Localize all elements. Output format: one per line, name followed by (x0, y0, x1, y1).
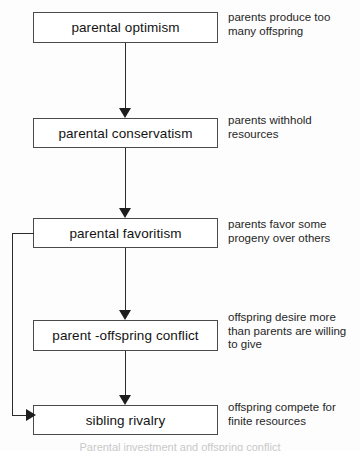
node-label: parent -offspring conflict (52, 328, 198, 343)
annotation-parental-optimism: parents produce too many offspring (228, 11, 360, 38)
node-parental-favoritism[interactable]: parental favoritism (33, 218, 218, 248)
node-label: parental conservatism (58, 126, 192, 141)
edge-conflict-rivalry-arrowhead (119, 395, 131, 405)
edge-favoritism-conflict-arrowhead (119, 310, 131, 320)
edge-favoritism-rivalry-loop-arrowhead (26, 409, 36, 421)
node-label: sibling rivalry (86, 413, 166, 428)
node-label: parental favoritism (69, 226, 181, 241)
edge-favoritism-rivalry-loop-side (12, 233, 13, 415)
node-sibling-rivalry[interactable]: sibling rivalry (33, 405, 218, 435)
node-parental-optimism[interactable]: parental optimism (33, 12, 218, 43)
edge-favoritism-rivalry-loop-top (12, 233, 34, 234)
node-parent-offspring-conflict[interactable]: parent -offspring conflict (33, 320, 218, 351)
edge-conservatism-favoritism-arrowhead (119, 208, 131, 218)
flowchart-canvas: parental optimism parental conservatism … (0, 0, 360, 451)
edge-conflict-rivalry-shaft (125, 351, 126, 395)
edge-favoritism-conflict-shaft (125, 248, 126, 310)
annotation-parental-conservatism: parents withhold resources (228, 114, 360, 141)
figure-caption: Parental investment and offspring confli… (0, 441, 360, 451)
node-parental-conservatism[interactable]: parental conservatism (33, 118, 218, 148)
edge-conservatism-favoritism-shaft (125, 148, 126, 208)
edge-optimism-conservatism-shaft (125, 43, 126, 108)
edge-optimism-conservatism-arrowhead (119, 108, 131, 118)
annotation-sibling-rivalry: offspring compete for finite resources (228, 401, 360, 428)
annotation-parental-favoritism: parents favor some progeny over others (228, 218, 360, 245)
node-label: parental optimism (71, 20, 179, 35)
annotation-parent-offspring-conflict: offspring desire more than parents are w… (228, 311, 360, 352)
